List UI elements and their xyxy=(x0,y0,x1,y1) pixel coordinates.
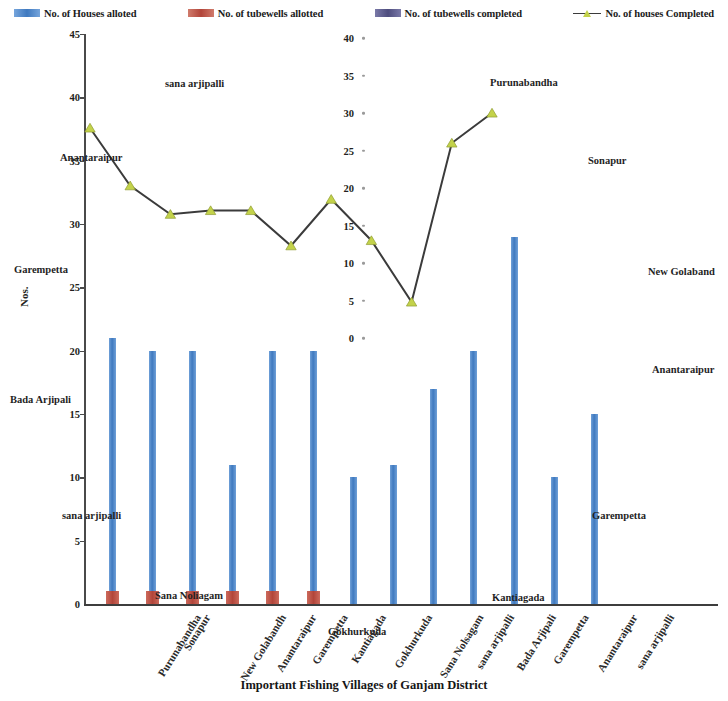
line-marker-triangle xyxy=(85,123,95,132)
chart-plot-area: Nos. 051015202530354045 0510152025303540… xyxy=(0,26,728,701)
chart-annotation-label: Sana Noliagam xyxy=(155,590,223,601)
line-marker-triangle xyxy=(326,195,336,204)
chart-annotation-label: Garempetta xyxy=(14,264,68,275)
line-marker-triangle xyxy=(487,108,497,117)
legend-swatch-red xyxy=(188,9,214,17)
legend-item-tubewells-completed: No. of tubewells completed xyxy=(375,8,523,19)
legend-line-marker-icon xyxy=(573,9,601,18)
legend-label-houses-alloted: No. of Houses alloted xyxy=(44,8,136,19)
line-marker-triangle xyxy=(406,297,416,306)
legend-label-tubewells-allotted: No. of tubewells allotted xyxy=(218,8,323,19)
line-marker-triangle xyxy=(125,181,135,190)
x-axis-title: Important Fishing Villages of Ganjam Dis… xyxy=(0,678,728,693)
legend-label-tubewells-completed: No. of tubewells completed xyxy=(405,8,523,19)
chart-annotation-label: Garempetta xyxy=(592,510,646,521)
chart-legend: No. of Houses alloted No. of tubewells a… xyxy=(0,0,728,26)
legend-item-tubewells-allotted: No. of tubewells allotted xyxy=(188,8,323,19)
line-series-houses-completed xyxy=(0,26,728,701)
chart-annotation-label: sana arjipalli xyxy=(165,78,224,89)
legend-label-houses-completed: No. of houses Completed xyxy=(605,8,714,19)
chart-annotation-label: Sonapur xyxy=(588,155,627,166)
chart-annotation-label: Kantiagada xyxy=(492,592,545,603)
chart-annotation-label: Anantaraipur xyxy=(652,364,714,375)
legend-item-houses-completed: No. of houses Completed xyxy=(573,8,714,19)
line-path-houses-completed xyxy=(90,113,492,302)
chart-annotation-label: Purunabandha xyxy=(490,77,558,88)
chart-annotation-label: Anantaraipur xyxy=(60,152,122,163)
chart-annotation-label: New Golaband xyxy=(648,266,715,277)
legend-item-houses-alloted: No. of Houses alloted xyxy=(14,8,136,19)
chart-annotation-label: sana arjipalli xyxy=(62,510,121,521)
legend-swatch-purple xyxy=(375,9,401,17)
legend-swatch-blue xyxy=(14,9,40,17)
chart-annotation-label: Bada Arjipali xyxy=(10,394,71,405)
